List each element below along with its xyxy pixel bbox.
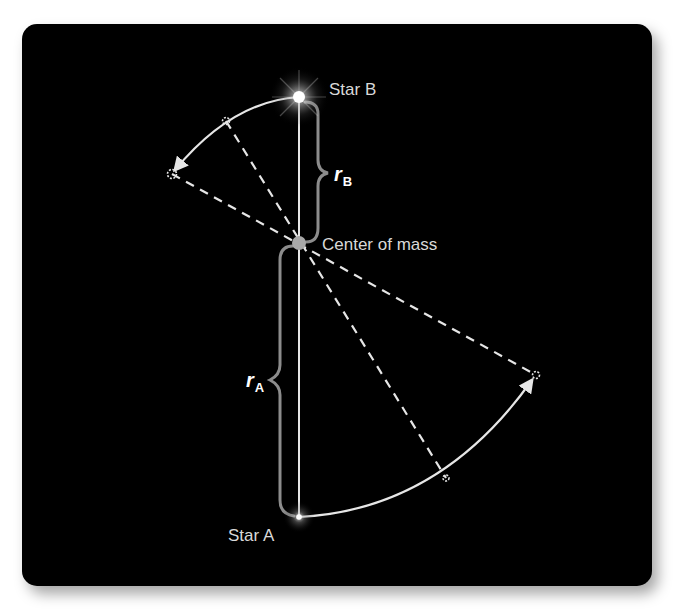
center-of-mass-icon <box>292 236 306 250</box>
radius-b-subscript: B <box>343 174 352 189</box>
radius-a-brace <box>270 246 294 516</box>
center-of-mass-label: Center of mass <box>322 236 437 253</box>
radius-b-symbol: r <box>334 163 342 185</box>
star-a-label: Star A <box>228 527 274 544</box>
star-b-icon <box>269 67 329 127</box>
position-markers <box>168 118 540 482</box>
radius-a-symbol: r <box>246 369 254 391</box>
radius-b-label: rB <box>334 164 352 184</box>
star-b-label: Star B <box>329 81 376 98</box>
star-a-orbit-arc <box>299 380 532 517</box>
star-a-icon <box>283 501 315 533</box>
radius-a-subscript: A <box>255 380 264 395</box>
simultaneous-position-lines <box>172 121 536 478</box>
radius-a-label: rA <box>246 370 264 390</box>
